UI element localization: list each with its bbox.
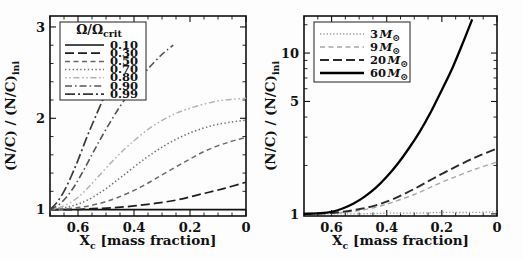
plot-right: 0.60.40.201510(N/C) / (N/C)iniXc [mass f…	[262, 0, 523, 260]
x-axis-title: Xc [mass fraction]	[80, 232, 217, 251]
legend-right: 3M⊙9M⊙20M⊙60M⊙	[314, 22, 410, 82]
curve-0-70	[50, 120, 246, 210]
y-tick-label: 10	[281, 46, 299, 61]
curve-0-30	[50, 182, 246, 209]
panel-left: 0.60.40.20123(N/C) / (N/C)iniXc [mass fr…	[0, 0, 262, 260]
curve-9-Msun	[304, 162, 497, 214]
y-tick-label: 5	[290, 94, 299, 109]
figure-container: 0.60.40.20123(N/C) / (N/C)iniXc [mass fr…	[0, 0, 523, 260]
legend-label-0-99: 0.99	[110, 87, 138, 101]
y-tick-label: 1	[36, 202, 45, 217]
curve-0-50	[50, 137, 246, 209]
panel-right: 0.60.40.201510(N/C) / (N/C)iniXc [mass f…	[262, 0, 523, 260]
x-tick-label: 0	[492, 220, 501, 235]
y-axis-title: (N/C) / (N/C)ini	[262, 61, 281, 171]
x-tick-label: 0	[241, 220, 250, 235]
legend-left: Ω/Ωcrit0.100.300.500.700.800.900.99	[60, 22, 146, 101]
x-axis-title: Xc [mass fraction]	[332, 232, 469, 251]
y-tick-label: 1	[290, 207, 299, 222]
y-tick-label: 2	[36, 111, 45, 126]
curve-0-80	[50, 98, 246, 209]
plot-left: 0.60.40.20123(N/C) / (N/C)iniXc [mass fr…	[0, 0, 262, 260]
y-tick-label: 3	[36, 20, 45, 35]
y-axis-title: (N/C) / (N/C)ini	[2, 61, 21, 171]
